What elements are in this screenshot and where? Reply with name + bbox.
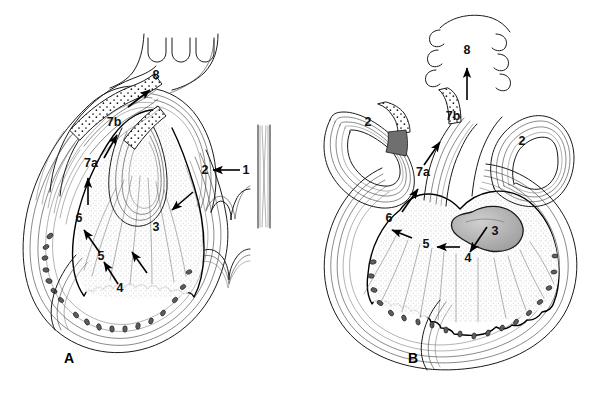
panel-a-letter: A <box>64 350 74 366</box>
panel-b-label-6: 6 <box>386 211 393 225</box>
panel-a-label-6: 6 <box>76 211 83 225</box>
panel-b-label-3: 3 <box>492 224 499 238</box>
panel-a-label-4: 4 <box>117 281 124 295</box>
panel-b-label-8: 8 <box>464 43 471 57</box>
panel-a-label-3: 3 <box>153 220 160 234</box>
panel-b-letter: B <box>408 350 418 366</box>
panel-a-label-1: 1 <box>243 163 250 177</box>
panel-a-label-7a: 7a <box>84 156 99 170</box>
panel-a-label-7b: 7b <box>107 115 122 129</box>
panel-b-label-4: 4 <box>465 251 472 265</box>
panel-a-label-8: 8 <box>153 68 160 82</box>
panel-b-label-7a: 7a <box>416 165 431 179</box>
anatomical-diagram-svg: 8 7b 7a 2 1 3 6 5 4 A <box>0 0 606 394</box>
panel-b-label-7b: 7b <box>446 109 461 123</box>
panel-b-label-2-right: 2 <box>519 134 526 148</box>
panel-a-label-2: 2 <box>202 163 209 177</box>
panel-a-label-5: 5 <box>98 249 105 263</box>
figure-root: 8 7b 7a 2 1 3 6 5 4 A <box>0 0 606 394</box>
panel-b-label-2-left: 2 <box>365 115 372 129</box>
panel-b-shaded-wedge <box>386 130 408 156</box>
panel-b-label-5: 5 <box>423 237 430 251</box>
